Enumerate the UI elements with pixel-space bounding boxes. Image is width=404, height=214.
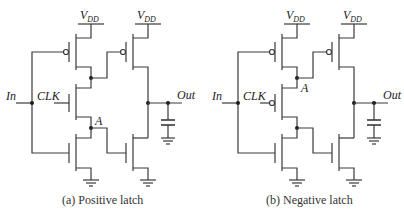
ground-icon: [140, 180, 156, 186]
pmos-clock-transistor: [260, 78, 297, 128]
output-label: Out: [177, 88, 196, 102]
svg-text:CLK: CLK: [243, 89, 267, 103]
clk-label: CLK: [37, 89, 61, 103]
svg-text:Out: Out: [383, 88, 402, 102]
input-label: In: [5, 89, 16, 103]
pmos-transistor: [64, 24, 92, 78]
nmos-transistor: [69, 128, 91, 180]
pmos-transistor: [327, 24, 355, 103]
vdd-label: VDD: [80, 8, 99, 24]
pmos-transistor: [121, 24, 149, 103]
panel-positive-latch: VDD CLK In A: [5, 8, 196, 207]
caption-a: (a) Positive latch: [62, 193, 143, 207]
nmos-clock-transistor: [54, 78, 91, 128]
svg-text:VDD: VDD: [286, 8, 305, 24]
capacitor-icon: [367, 103, 381, 144]
latch-diagram: VDD CLK In A: [0, 0, 404, 214]
svg-text:In: In: [211, 89, 222, 103]
svg-text:VDD: VDD: [343, 8, 362, 24]
pmos-transistor: [270, 24, 298, 78]
panel-negative-latch: VDD A CLK In: [211, 8, 402, 207]
nmos-transistor: [332, 103, 354, 180]
ground-icon: [289, 180, 305, 186]
nmos-transistor: [126, 103, 148, 180]
ground-icon: [346, 180, 362, 186]
node-a-label: A: [94, 114, 103, 128]
ground-icon: [83, 180, 99, 186]
svg-text:VDD: VDD: [137, 8, 156, 24]
capacitor-icon: [161, 103, 175, 144]
nmos-transistor: [275, 128, 297, 180]
node-a-label: A: [300, 81, 309, 95]
caption-b: (b) Negative latch: [266, 193, 353, 207]
